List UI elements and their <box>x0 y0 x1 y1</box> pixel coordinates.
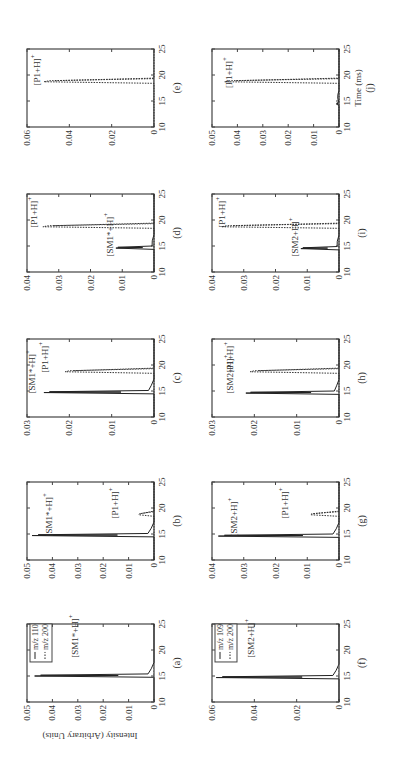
x-tick-label: 15 <box>157 529 167 539</box>
y-tick-label: 0.04 <box>207 275 217 291</box>
legend: m/z 109m/z 200 <box>215 624 237 662</box>
series-line-solid <box>116 194 154 272</box>
y-tick-label: 0.04 <box>249 705 259 721</box>
y-tick-label: 0.01 <box>292 420 302 436</box>
x-tick-label: 20 <box>157 645 167 655</box>
series-line-solid <box>301 194 339 272</box>
x-tick-label: 10 <box>157 122 167 132</box>
y-tick-label: 0.05 <box>22 563 32 579</box>
x-tick-label: 15 <box>157 386 167 396</box>
plot-frame <box>27 49 154 127</box>
y-tick-label: 0.05 <box>207 130 217 146</box>
series-line-dotted <box>43 194 154 272</box>
y-tick-label: 0.03 <box>258 130 268 146</box>
y-tick-label: 0.01 <box>117 275 127 291</box>
y-tick-label: 0.03 <box>73 705 83 721</box>
y-tick-label: 0.01 <box>124 563 134 579</box>
figure-canvas: 00.010.020.030.040.0510152025[SM1*+H]+m/… <box>0 0 406 757</box>
panel-label: (b) <box>171 515 183 527</box>
panel-g: 00.010.020.030.0410152025[SM2+H]+[P1+H]+… <box>207 477 368 579</box>
y-tick-label: 0.02 <box>107 130 117 146</box>
peak-annotation: [P1+H]+ <box>277 487 290 518</box>
peak-annotation: [SM1*+H]+ <box>67 614 80 658</box>
y-tick-label: 0.02 <box>283 130 293 146</box>
series-line-dotted <box>225 49 339 127</box>
series-line-dotted <box>65 339 154 417</box>
peak-annotation: [P1+H]+ <box>221 57 234 88</box>
y-tick-label: 0.02 <box>98 563 108 579</box>
peak-annotation: [P1+H]+ <box>107 487 120 518</box>
y-tick-label: 0.02 <box>64 420 74 436</box>
y-tick-label: 0.06 <box>22 130 32 146</box>
x-tick-label: 20 <box>157 360 167 370</box>
panel-label: (d) <box>171 227 183 239</box>
y-tick-label: 0.03 <box>239 275 249 291</box>
y-tick-label: 0.03 <box>73 563 83 579</box>
plot-frame <box>27 194 154 272</box>
panel-c: 00.010.020.0310152025[SM1*+H]+[P1+H]+(c) <box>22 334 183 436</box>
panel-i: 00.010.020.030.0410152025[SM2+H]+[P1+H]+… <box>207 189 368 291</box>
y-tick-label: 0.02 <box>292 705 302 721</box>
x-tick-label: 10 <box>342 412 352 422</box>
series-line-dotted <box>44 49 154 127</box>
x-tick-label: 10 <box>157 412 167 422</box>
panel-h: 00.010.020.0310152025[SM2+H]+[P1+H]+(h) <box>207 334 368 436</box>
y-tick-label: 0.02 <box>271 275 281 291</box>
figure-rotated: 00.010.020.030.040.0510152025[SM1*+H]+m/… <box>0 0 406 757</box>
y-tick-label: 0.01 <box>107 420 117 436</box>
x-tick-label: 20 <box>342 215 352 225</box>
y-tick-label: 0.04 <box>47 563 57 579</box>
peak-annotation: [P1+H]+ <box>29 54 42 85</box>
y-tick-label: 0.02 <box>249 420 259 436</box>
panel-e: 00.020.040.0610152025[P1+H]+(e) <box>22 44 183 146</box>
x-tick-label: 25 <box>342 334 352 344</box>
series-line-solid <box>44 339 154 417</box>
y-tick-label: 0.01 <box>302 275 312 291</box>
peak-annotation: [P1+H]+ <box>37 342 50 373</box>
panel-a: 00.010.020.030.040.0510152025[SM1*+H]+m/… <box>22 614 183 721</box>
y-tick-label: 0.04 <box>22 275 32 291</box>
x-tick-label: 25 <box>157 44 167 54</box>
peak-annotation: [SM1*+H]+ <box>102 213 115 257</box>
x-tick-label: 15 <box>157 96 167 106</box>
x-tick-label: 25 <box>342 477 352 487</box>
series-line-solid <box>35 624 154 702</box>
x-tick-label: 25 <box>342 44 352 54</box>
x-axis-label: Time (ms) <box>353 69 363 106</box>
y-tick-label: 0.02 <box>86 275 96 291</box>
legend-entry: m/z 110 <box>31 624 40 650</box>
y-tick-label: 0.03 <box>239 563 249 579</box>
x-tick-label: 10 <box>157 267 167 277</box>
x-tick-label: 25 <box>157 334 167 344</box>
panel-j: 00.010.020.030.040.0510152025[P1+H]+(j)T… <box>207 44 376 146</box>
series-line-dotted <box>310 482 339 560</box>
y-tick-label: 0.06 <box>207 705 217 721</box>
x-tick-label: 20 <box>342 503 352 513</box>
x-tick-label: 20 <box>342 645 352 655</box>
panel-f: 00.020.040.0610152025[SM2+H]+m/z 109m/z … <box>207 619 368 721</box>
x-tick-label: 15 <box>342 529 352 539</box>
y-tick-label: 0.04 <box>207 563 217 579</box>
panel-label: (g) <box>356 515 368 527</box>
x-tick-label: 20 <box>157 503 167 513</box>
x-tick-label: 25 <box>157 477 167 487</box>
y-tick-label: 0.01 <box>309 130 319 146</box>
series-line-dotted <box>139 482 154 560</box>
x-tick-label: 15 <box>342 241 352 251</box>
y-axis-label: Intensity (Arbitrary Units) <box>43 731 138 741</box>
panel-d: 00.010.020.030.0410152025[SM1*+H]+[P1+H]… <box>22 189 183 291</box>
legend-entry: m/z 200 <box>41 624 50 650</box>
x-tick-label: 15 <box>342 96 352 106</box>
x-tick-label: 25 <box>157 619 167 629</box>
x-tick-label: 15 <box>342 671 352 681</box>
x-tick-label: 10 <box>157 555 167 565</box>
x-tick-label: 10 <box>342 122 352 132</box>
x-tick-label: 15 <box>157 671 167 681</box>
y-tick-label: 0.03 <box>22 420 32 436</box>
x-tick-label: 20 <box>157 70 167 80</box>
panel-label: (a) <box>171 657 183 668</box>
x-tick-label: 25 <box>157 189 167 199</box>
y-tick-label: 0.02 <box>98 705 108 721</box>
y-tick-label: 0.03 <box>207 420 217 436</box>
series-line-dotted <box>222 194 339 272</box>
